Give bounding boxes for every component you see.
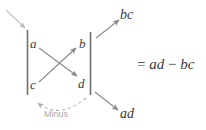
matrix-entry-bottom-right: d — [78, 77, 85, 90]
matrix-entry-bottom-left: c — [30, 78, 36, 91]
matrix-entry-top-right: b — [79, 37, 86, 50]
diagonal-arrow-d-to-ad-product — [95, 92, 118, 110]
diagonal-arrow-b-to-bc-product — [96, 20, 119, 38]
equals-sign: = — [137, 56, 145, 72]
diagonal-arrow-c-to-b — [39, 48, 76, 82]
product-label-bc: bc — [120, 8, 133, 22]
product-label-ad: ad — [120, 107, 134, 121]
result-equation: = ad − bc — [137, 57, 194, 72]
minus-caption: Minus — [44, 110, 68, 119]
incoming-arrow — [6, 10, 25, 28]
matrix-entry-top-left: a — [30, 37, 37, 50]
minus-sign: − — [168, 56, 176, 72]
result-term-ad: ad — [149, 56, 164, 72]
result-term-bc: bc — [180, 56, 194, 72]
determinant-mnemonic-diagram: a b c d bc ad Minus = ad − bc — [0, 0, 206, 130]
